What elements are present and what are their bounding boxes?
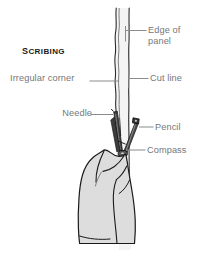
label-needle: Needle [47,108,92,119]
label-edge-of-panel: Edge of panel [148,25,208,46]
scribing-figure: Scribing Edge of panel Cut line Pencil C… [0,0,211,261]
label-cut-line: Cut line [150,73,208,84]
hand-silhouette [78,150,135,244]
label-pencil: Pencil [155,122,210,133]
hand-group [78,150,135,244]
page-title: Scribing [22,42,65,57]
label-compass: Compass [147,145,209,156]
leader-cut-line [129,70,148,88]
compass-hinge-inner [121,152,125,155]
compass-needle-tip [111,109,113,112]
label-irregular-corner: Irregular corner [10,73,90,84]
compass-pencil-screw [134,119,137,122]
